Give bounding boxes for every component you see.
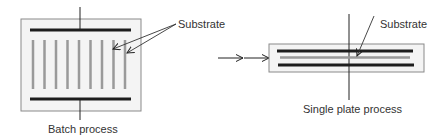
- single-plate-process-group: Substrate Single plate process: [218, 14, 427, 115]
- batch-process-caption: Batch process: [48, 123, 118, 135]
- single-plate-process-caption: Single plate process: [303, 103, 403, 115]
- process-diagram: Substrate Batch process Substrate Single…: [0, 0, 443, 140]
- batch-chamber: [21, 19, 141, 111]
- batch-process-group: Substrate Batch process: [21, 7, 225, 135]
- batch-substrate-label: Substrate: [178, 18, 225, 30]
- single-substrate-label: Substrate: [380, 18, 427, 30]
